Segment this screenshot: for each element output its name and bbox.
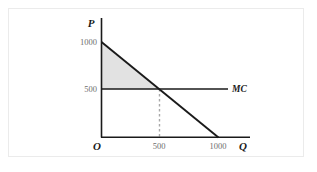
x-axis-label: Q [239,140,247,152]
y-tick-label-1000: 1000 [80,37,97,47]
marginal-cost-label: MC [231,84,247,94]
x-tick-label-1000: 1000 [210,141,227,151]
y-axis-label: P [88,17,95,29]
economics-supply-demand-plot: P Q O 1000 500 500 1000 MC [0,0,317,172]
y-tick-label-500: 500 [84,84,97,94]
figure-root: P Q O 1000 500 500 1000 MC [0,0,317,172]
x-tick-label-500: 500 [153,141,166,151]
origin-label: O [93,140,101,152]
